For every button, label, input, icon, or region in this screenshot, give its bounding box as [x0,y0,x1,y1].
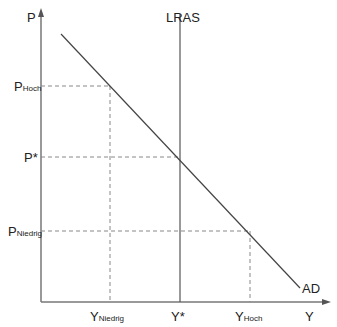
p-low-main: P [8,224,17,239]
ad-lras-diagram: P Y LRAS AD PHoch P* PNiedrig YNiedrig Y… [0,0,337,327]
ad-label: AD [302,281,320,296]
y-axis-label: P [27,10,36,25]
y-low-label: YNiedrig [90,309,124,324]
y-high-label: YHoch [235,309,262,324]
guide-lines [41,86,250,302]
p-high-main: P [14,79,23,94]
y-high-sub: Hoch [244,314,263,323]
p-star-label: P* [24,150,38,165]
x-axis-label: Y [305,309,314,324]
lras-label: LRAS [166,10,200,25]
p-high-label: PHoch [14,79,41,94]
y-axis-arrow-icon [38,8,44,17]
y-low-sub: Niedrig [99,314,124,323]
x-axis-arrow-icon [322,299,331,305]
y-star-label: Y* [171,309,185,324]
p-low-label: PNiedrig [8,224,42,239]
y-low-main: Y [90,309,99,324]
p-low-sub: Niedrig [17,229,42,238]
p-high-sub: Hoch [23,84,42,93]
y-high-main: Y [235,309,244,324]
